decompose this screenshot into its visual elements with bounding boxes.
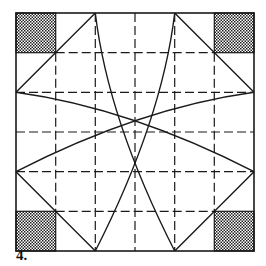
pattern-diagram xyxy=(0,0,266,266)
figure-label: 4. xyxy=(16,247,27,264)
